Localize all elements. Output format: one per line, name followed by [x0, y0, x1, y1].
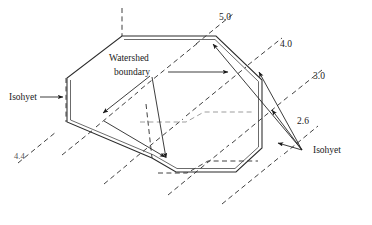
isohyet-value-5-0: 5.0 — [219, 12, 231, 22]
watershed-boundary-label-line1: Watershed — [109, 53, 149, 63]
isohyet-label-right: Isohyet — [313, 145, 341, 155]
isohyet-line-2-6-lower — [222, 156, 281, 204]
isohyet-line-4-0-tail — [130, 119, 183, 162]
isohyet-contour-inner-lower — [158, 161, 258, 173]
isohyet-line-5-0-tail — [96, 92, 138, 127]
isohyet-line-4-0-lower — [186, 67, 246, 116]
isohyet-value-4-4: 4.4 — [14, 151, 25, 161]
isohyet-value-3-0: 3.0 — [313, 71, 325, 81]
isohyet-contour-inner-upper — [140, 112, 252, 122]
isohyet-line-5-0-lower — [141, 42, 199, 89]
leader-watershed-to-left — [103, 76, 150, 113]
watershed-boundary-label-line2: boundary — [114, 67, 150, 77]
watershed-isohyet-diagram: Watershed boundary Isohyet Isohyet 5.0 4… — [0, 0, 372, 225]
leader-watershed-to-bottom-left — [104, 121, 165, 157]
isohyet-label-left: Isohyet — [9, 92, 37, 102]
isohyet-line-4-0-tail2 — [104, 165, 127, 184]
leader-lines-group — [40, 44, 302, 158]
isohyet-line-5-0-tail2 — [62, 130, 93, 155]
isohyet-lines-group — [18, 8, 322, 204]
isohyet-line-4-0 — [248, 38, 282, 65]
isohyet-value-2-6: 2.6 — [297, 116, 309, 126]
leader-watershed-to-bottom — [152, 77, 166, 158]
leader-isohyet-right-to-5-0 — [213, 44, 302, 150]
isohyet-line-inner-vertical — [146, 104, 152, 158]
leader-isohyet-right-to-4-0 — [259, 72, 302, 150]
figure-text-labels: Watershed boundary Isohyet Isohyet 5.0 4… — [9, 12, 341, 161]
isohyet-line-3-0-lower — [232, 96, 289, 143]
isohyet-value-4-0: 4.0 — [280, 39, 292, 49]
isohyet-line-3-0-tail — [168, 145, 229, 195]
